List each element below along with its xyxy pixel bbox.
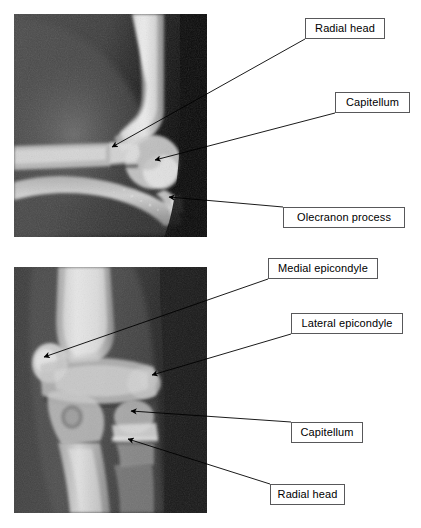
- lateral-elbow-radiograph: [14, 14, 207, 237]
- callout-capitellum-lateral[interactable]: Capitellum: [335, 92, 410, 113]
- callout-label: Lateral epicondyle: [301, 318, 392, 329]
- callout-label: Medial epicondyle: [278, 263, 368, 274]
- callout-radial-head-ap[interactable]: Radial head: [270, 484, 345, 505]
- callout-label: Radial head: [315, 23, 375, 34]
- callout-capitellum-ap[interactable]: Capitellum: [291, 422, 363, 443]
- lateral-elbow-radiograph-image: [14, 14, 207, 237]
- callout-label: Olecranon process: [297, 212, 391, 223]
- callout-label: Capitellum: [301, 427, 354, 438]
- ap-elbow-radiograph-image: [14, 267, 207, 513]
- callout-radial-head-lateral[interactable]: Radial head: [305, 18, 385, 39]
- callout-label: Radial head: [278, 489, 338, 500]
- callout-olecranon-process-lateral[interactable]: Olecranon process: [283, 207, 405, 228]
- callout-label: Capitellum: [346, 97, 399, 108]
- callout-medial-epicondyle-ap[interactable]: Medial epicondyle: [268, 258, 378, 279]
- ap-elbow-radiograph: [14, 267, 207, 513]
- annotated-radiograph-figure: Radial head Capitellum Olecranon process…: [0, 0, 421, 528]
- callout-lateral-epicondyle-ap[interactable]: Lateral epicondyle: [291, 313, 403, 334]
